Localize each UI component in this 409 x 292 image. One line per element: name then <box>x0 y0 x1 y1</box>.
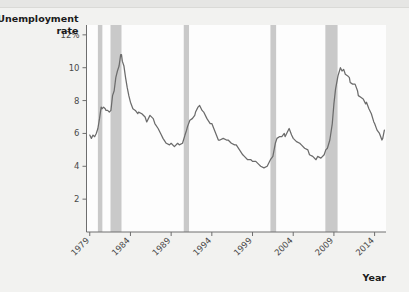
y-axis-title-line2: rate <box>56 25 78 36</box>
x-tick-label-3: 1994 <box>191 235 213 257</box>
y-tick-label-5: 2 <box>74 194 79 204</box>
recession-band-0 <box>98 25 102 232</box>
x-tick-label-1: 1984 <box>109 235 131 257</box>
x-tick-label-7: 2014 <box>354 235 376 257</box>
chart-figure: 12%1086421979198419891994199920042009201… <box>0 0 409 292</box>
x-tick-label-4: 1999 <box>232 235 254 257</box>
recession-band-3 <box>270 25 276 232</box>
x-tick-label-2: 1989 <box>150 235 172 257</box>
y-tick-label-1: 10 <box>69 63 80 73</box>
x-tick-label-0: 1979 <box>69 235 91 257</box>
y-axis-title-line1: Unemployment <box>0 13 79 24</box>
y-tick-label-2: 8 <box>74 96 79 106</box>
y-tick-label-4: 4 <box>74 161 79 171</box>
x-tick-label-5: 2004 <box>272 235 294 257</box>
unemployment-rate-line-chart: 12%1086421979198419891994199920042009201… <box>0 0 409 292</box>
y-tick-label-3: 6 <box>74 128 79 138</box>
x-tick-label-6: 2009 <box>313 235 335 257</box>
x-axis-title: Year <box>361 272 386 283</box>
plot-area-background <box>87 25 387 232</box>
